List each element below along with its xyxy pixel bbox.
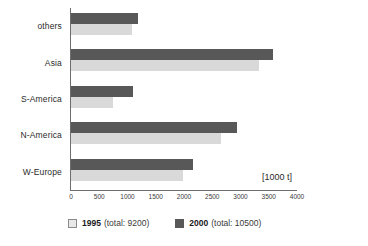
x-tick-label: 4000 xyxy=(290,193,304,200)
legend-item-2000: 2000 (total: 10500) xyxy=(175,218,261,228)
category-label-n-america: N-America xyxy=(21,130,63,140)
bar-2000-s-america xyxy=(71,86,133,97)
category-label-s-america: S-America xyxy=(21,94,62,104)
dark-square-swatch-icon xyxy=(175,219,184,228)
bar-1995-w-europe xyxy=(71,170,183,181)
bar-1995-n-america xyxy=(71,133,221,144)
legend-label-2000: 2000 xyxy=(189,218,208,228)
bar-1995-others xyxy=(71,24,132,35)
chart-legend: 1995 (total: 9200) 2000 (total: 10500) xyxy=(68,218,261,228)
legend-total-1995: (total: 9200) xyxy=(104,218,149,228)
category-row: N-America xyxy=(71,117,297,153)
bar-2000-asia xyxy=(71,49,273,60)
x-axis-line xyxy=(70,190,297,191)
x-tick-label: 2500 xyxy=(205,193,219,200)
plot-area: others Asia S-America N-America W-Europe xyxy=(71,8,297,190)
bar-2000-others xyxy=(71,13,138,24)
bar-2000-w-europe xyxy=(71,159,193,170)
category-row: S-America xyxy=(71,81,297,117)
category-row: Asia xyxy=(71,44,297,80)
x-tick-label: 500 xyxy=(94,193,105,200)
x-tick-label: 3500 xyxy=(262,193,276,200)
light-square-swatch-icon xyxy=(68,219,77,228)
x-axis-unit-label: [1000 t] xyxy=(262,172,292,182)
bar-chart: others Asia S-America N-America W-Europe… xyxy=(0,0,368,246)
legend-item-1995: 1995 (total: 9200) xyxy=(68,218,149,228)
bar-2000-n-america xyxy=(71,122,237,133)
legend-label-1995: 1995 xyxy=(82,218,101,228)
category-label-asia: Asia xyxy=(45,58,62,68)
x-tick-label: 1000 xyxy=(120,193,134,200)
bar-1995-s-america xyxy=(71,97,113,108)
category-label-w-europe: W-Europe xyxy=(23,167,62,177)
x-tick-label: 3000 xyxy=(233,193,247,200)
x-tick-label: 2000 xyxy=(177,193,191,200)
category-row: others xyxy=(71,8,297,44)
category-label-others: others xyxy=(37,21,62,31)
x-tick-label: 0 xyxy=(69,193,73,200)
legend-total-2000: (total: 10500) xyxy=(211,218,261,228)
x-tick-label: 1500 xyxy=(149,193,163,200)
bar-1995-asia xyxy=(71,60,259,71)
